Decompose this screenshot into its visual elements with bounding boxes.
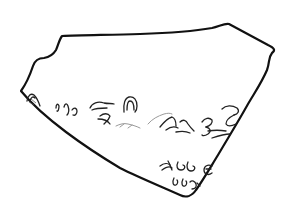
ostracon-drawing xyxy=(0,0,292,214)
